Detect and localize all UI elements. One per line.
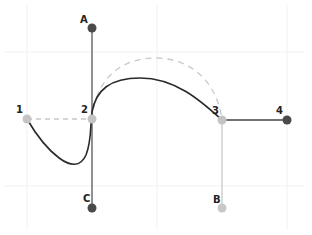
grid bbox=[5, 5, 305, 230]
label-handle-b: B bbox=[213, 194, 221, 205]
anchor-point-2[interactable] bbox=[88, 115, 97, 124]
label-point-4: 4 bbox=[276, 105, 283, 116]
handle-point-a[interactable] bbox=[88, 24, 97, 33]
bezier-curve bbox=[27, 78, 222, 164]
label-point-1: 1 bbox=[16, 104, 23, 115]
label-handle-a: A bbox=[80, 14, 88, 25]
label-point-2: 2 bbox=[81, 104, 88, 115]
handle-point-c[interactable] bbox=[88, 204, 97, 213]
label-point-3: 3 bbox=[212, 105, 219, 116]
anchor-point-3[interactable] bbox=[218, 116, 227, 125]
label-handle-c: C bbox=[83, 193, 90, 204]
bezier-diagram: 1 2 3 4 A C B bbox=[0, 0, 312, 235]
anchor-point-1[interactable] bbox=[23, 115, 32, 124]
handle-point-4[interactable] bbox=[283, 116, 292, 125]
